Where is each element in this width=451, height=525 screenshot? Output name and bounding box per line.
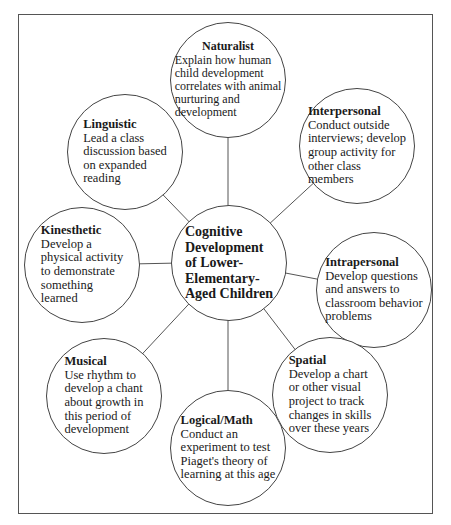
node-line: and answers to (325, 283, 423, 297)
node-intrapersonal: Intrapersonal Develop questions and answ… (316, 232, 432, 348)
node-title: Interpersonal (308, 105, 406, 119)
node-line: on expanded (83, 159, 167, 173)
node-logical-math: Logical/Math Conduct an experiment to te… (170, 390, 286, 506)
node-title: Spatial (289, 354, 372, 368)
node-line: Conduct an (181, 428, 276, 442)
node-line: or other visual (289, 381, 372, 395)
node-line: Develop a (41, 238, 123, 252)
node-line: reading (83, 172, 167, 186)
node-line: Conduct outside (308, 119, 406, 133)
node-naturalist: Naturalist Explain how human child devel… (170, 22, 286, 138)
node-line: this period of (64, 410, 143, 424)
node-line: interviews; develop (308, 132, 406, 146)
node-line: physical activity (41, 251, 123, 265)
center-node: Cognitive Development of Lower- Elementa… (171, 205, 287, 321)
node-line: learning at this age (181, 468, 276, 482)
node-line: Use rhythm to (64, 369, 143, 383)
center-line: Development (185, 240, 273, 256)
center-line: Cognitive (185, 224, 273, 240)
node-line: develop a chant (64, 382, 143, 396)
node-line: changes in skills (289, 409, 372, 423)
node-line: other class (308, 160, 406, 174)
node-line: classroom behavior (325, 297, 423, 311)
node-interpersonal: Interpersonal Conduct outside interviews… (299, 88, 415, 204)
node-title: Linguistic (83, 118, 167, 132)
center-line: Aged Children (185, 286, 273, 302)
node-line: about growth in (64, 396, 143, 410)
node-line: members (308, 173, 406, 187)
node-line: group activity for (308, 146, 406, 160)
node-line: project to track (289, 395, 372, 409)
node-line: Lead a class (83, 132, 167, 146)
node-line: Develop questions (325, 270, 423, 284)
node-title: Intrapersonal (325, 256, 423, 270)
node-line: experiment to test (181, 441, 276, 455)
node-spatial: Spatial Develop a chart or other visual … (272, 337, 388, 453)
node-title: Naturalist (175, 40, 282, 53)
node-title: Logical/Math (181, 414, 276, 428)
node-line: learned (41, 292, 123, 306)
node-line: development (64, 423, 143, 437)
node-line: over these years (289, 422, 372, 436)
node-title: Kinesthetic (41, 224, 123, 238)
node-kinesthetic: Kinesthetic Develop a physical activity … (24, 207, 140, 323)
node-line: problems (325, 310, 423, 324)
center-line: of Lower- (185, 255, 273, 271)
center-line: Elementary- (185, 271, 273, 287)
node-line: Develop a chart (289, 368, 372, 382)
node-line: to demonstrate (41, 265, 123, 279)
node-linguistic: Linguistic Lead a class discussion based… (67, 94, 183, 210)
node-title: Musical (64, 355, 143, 369)
node-line: Piaget's theory of (181, 455, 276, 469)
node-line: discussion based (83, 145, 167, 159)
node-line: development (175, 106, 282, 119)
node-line: something (41, 279, 123, 293)
node-musical: Musical Use rhythm to develop a chant ab… (46, 338, 162, 454)
node-line: Explain how human (175, 54, 282, 67)
